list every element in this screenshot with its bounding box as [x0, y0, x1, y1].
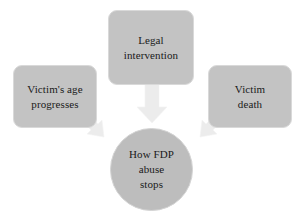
arrow-legal-to-center-icon — [137, 84, 167, 123]
node-victim-death[interactable]: Victim death — [208, 65, 292, 128]
node-legal-intervention-label: Legal intervention — [124, 33, 178, 62]
node-victim-death-label: Victim death — [235, 82, 266, 111]
node-victims-age-progresses-label: Victim's age progresses — [27, 82, 82, 111]
node-victims-age-progresses[interactable]: Victim's age progresses — [13, 65, 97, 128]
diagram-canvas: Legal intervention Victim's age progress… — [0, 0, 305, 223]
node-how-fdp-abuse-stops[interactable]: How FDP abuse stops — [110, 128, 193, 211]
node-legal-intervention[interactable]: Legal intervention — [108, 10, 194, 85]
node-how-fdp-abuse-stops-label: How FDP abuse stops — [129, 147, 174, 193]
